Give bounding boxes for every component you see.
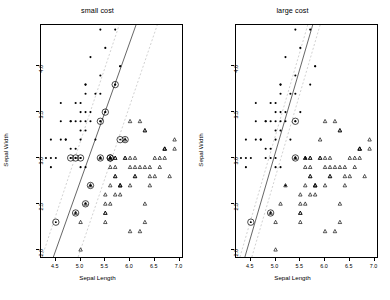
data-point-dot: [275, 139, 277, 141]
x-tick: [324, 258, 325, 261]
data-point-dot: [80, 157, 82, 159]
scatter-svg-small-cost: [41, 25, 182, 257]
data-point-dot: [245, 157, 247, 159]
data-point-triangle: [173, 138, 177, 141]
data-point-triangle: [274, 220, 278, 223]
x-tick-label: 6.0: [125, 263, 133, 269]
data-point-triangle: [113, 156, 117, 159]
data-point-dot: [279, 111, 281, 113]
data-point-dot: [75, 102, 77, 104]
data-point-triangle: [148, 184, 152, 187]
data-point-dot: [255, 102, 257, 104]
data-point-dot: [289, 139, 291, 141]
x-axis-title-small-cost: Sepal Length: [0, 274, 195, 281]
data-point-dot: [60, 102, 62, 104]
data-point-triangle: [304, 202, 308, 205]
data-point-triangle: [143, 165, 147, 168]
data-point-dot: [65, 139, 67, 141]
data-point-triangle: [118, 193, 122, 196]
data-point-dot: [119, 139, 121, 141]
data-point-dot: [270, 120, 272, 122]
data-point-dot: [309, 29, 311, 31]
x-axis-small-cost: 4.55.05.56.06.57.0: [40, 258, 183, 259]
data-point-triangle: [348, 156, 352, 159]
data-point-triangle: [353, 156, 357, 159]
data-point-triangle: [299, 211, 303, 214]
margin-line-1: [78, 25, 157, 257]
data-point-dot: [250, 221, 252, 223]
data-point-dot: [275, 120, 277, 122]
data-point-triangle: [79, 220, 83, 223]
x-tick: [250, 258, 251, 261]
data-point-dot: [55, 221, 57, 223]
data-point-triangle: [138, 165, 142, 168]
panel-large-cost: large cost 4.55.05.56.06.57.0 Sepal Leng…: [195, 0, 390, 300]
y-axis-small-cost: 2.02.53.03.54.0: [39, 24, 40, 258]
data-point-dot: [94, 93, 96, 95]
panel-small-cost: small cost 4.55.05.56.06.57.0 Sepal Leng…: [0, 0, 195, 300]
data-point-dot: [265, 120, 267, 122]
data-point-triangle: [104, 211, 108, 214]
data-point-triangle: [104, 193, 108, 196]
data-point-triangle: [308, 174, 312, 177]
data-point-dot: [284, 111, 286, 113]
data-point-dot: [299, 111, 301, 113]
data-point-dot: [275, 157, 277, 159]
x-tick: [299, 258, 300, 261]
data-point-triangle: [138, 119, 142, 122]
data-point-dot: [89, 111, 91, 113]
data-point-dot: [45, 157, 47, 159]
data-point-dot: [255, 139, 257, 141]
data-point-triangle: [123, 156, 127, 159]
data-point-dot: [265, 157, 267, 159]
data-point-triangle: [133, 156, 137, 159]
data-point-dot: [309, 84, 311, 86]
x-tick-label: 7.0: [175, 263, 183, 269]
data-point-dot: [99, 157, 101, 159]
data-point-triangle: [343, 174, 347, 177]
data-point-dot: [94, 139, 96, 141]
x-tick-label: 5.0: [271, 263, 279, 269]
x-tick: [374, 258, 375, 261]
data-point-dot: [279, 166, 281, 168]
data-point-triangle: [128, 156, 132, 159]
x-tick-label: 4.5: [51, 263, 59, 269]
x-tick: [80, 258, 81, 261]
data-point-triangle: [104, 220, 108, 223]
data-point-triangle: [109, 202, 113, 205]
x-tick: [275, 258, 276, 261]
data-point-dot: [275, 129, 277, 131]
data-point-dot: [114, 84, 116, 86]
x-tick-label: 5.5: [101, 263, 109, 269]
data-point-triangle: [133, 174, 137, 177]
data-point-triangle: [368, 147, 372, 150]
data-point-triangle: [128, 165, 132, 168]
data-point-dot: [50, 139, 52, 141]
y-tick-label: 3.5: [38, 111, 44, 119]
data-point-dot: [255, 120, 257, 122]
data-point-triangle: [304, 165, 308, 168]
y-tick-label: 3.0: [38, 157, 44, 165]
data-point-dot: [99, 74, 101, 76]
x-tick-label: 6.5: [150, 263, 158, 269]
data-point-triangle: [323, 156, 327, 159]
data-point-dot: [245, 139, 247, 141]
x-tick: [179, 258, 180, 261]
data-point-dot: [294, 93, 296, 95]
data-point-triangle: [299, 193, 303, 196]
x-tick-label: 5.0: [76, 263, 84, 269]
data-point-triangle: [313, 193, 317, 196]
data-point-triangle: [113, 174, 117, 177]
data-point-triangle: [153, 156, 157, 159]
data-point-dot: [99, 29, 101, 31]
y-axis-title-large-cost: Sepal Width: [197, 133, 204, 166]
data-point-dot: [80, 139, 82, 141]
data-point-triangle: [143, 202, 147, 205]
data-point-triangle: [313, 184, 317, 187]
data-point-dot: [80, 129, 82, 131]
data-point-dot: [119, 65, 121, 67]
data-point-dot: [270, 148, 272, 150]
data-point-triangle: [143, 129, 147, 132]
data-point-triangle: [128, 229, 132, 232]
data-point-dot: [80, 102, 82, 104]
